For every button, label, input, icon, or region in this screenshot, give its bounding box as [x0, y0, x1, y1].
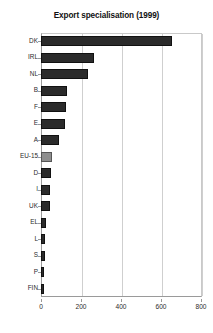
bar-row	[41, 267, 202, 277]
y-axis-tick-mark	[38, 41, 41, 42]
y-axis-tick-mark	[38, 173, 41, 174]
bars-layer	[41, 33, 202, 297]
chart-title: Export specialisation (1999)	[0, 11, 213, 20]
y-axis-tick-label: I	[0, 186, 38, 192]
bar-uk[interactable]	[41, 201, 50, 211]
y-axis-tick-label: EU-15	[0, 153, 38, 159]
bar-dk[interactable]	[41, 36, 172, 46]
y-axis-tick-mark	[38, 289, 41, 290]
bar-row	[41, 168, 202, 178]
x-axis-tick-label: 400	[115, 304, 126, 311]
bar-e[interactable]	[41, 119, 65, 129]
y-axis-tick-label: NL	[0, 71, 38, 77]
x-axis-tick-mark	[121, 299, 122, 302]
y-axis-tick-label: EL	[0, 219, 38, 225]
bar-b[interactable]	[41, 86, 67, 96]
y-axis-tick-mark	[38, 239, 41, 240]
y-axis-tick-label: FIN	[0, 285, 38, 291]
y-axis-tick-mark	[38, 124, 41, 125]
bar-row	[41, 53, 202, 63]
y-axis-tick-mark	[38, 272, 41, 273]
x-axis-tick-label: 200	[75, 304, 86, 311]
bar-a[interactable]	[41, 135, 59, 145]
bar-row	[41, 185, 202, 195]
bar-row	[41, 69, 202, 79]
y-axis-tick-label: A	[0, 137, 38, 143]
y-axis-tick-mark	[38, 91, 41, 92]
x-axis-labels: 0200400600800	[0, 299, 213, 319]
y-axis-tick-label: B	[0, 87, 38, 93]
bar-f[interactable]	[41, 102, 66, 112]
bar-el[interactable]	[41, 218, 46, 228]
y-axis-tick-mark	[38, 140, 41, 141]
y-axis-tick-label: P	[0, 269, 38, 275]
y-axis-labels: DKIRLNLBFEAEU-15DIUKELLSPFIN	[0, 33, 38, 297]
bar-irl[interactable]	[41, 53, 94, 63]
y-axis-tick-mark	[38, 107, 41, 108]
y-axis-tick-mark	[38, 206, 41, 207]
bar-row	[41, 119, 202, 129]
x-axis-tick-label: 600	[155, 304, 166, 311]
bar-row	[41, 251, 202, 261]
bar-chart: Export specialisation (1999) DKIRLNLBFEA…	[0, 0, 213, 333]
y-axis-tick-label: L	[0, 236, 38, 242]
y-axis-tick-label: F	[0, 104, 38, 110]
x-axis-tick-mark	[201, 299, 202, 302]
bar-row	[41, 284, 202, 294]
bar-fin[interactable]	[41, 284, 44, 294]
bar-row	[41, 218, 202, 228]
gridline	[202, 34, 203, 296]
x-axis-tick-label: 800	[195, 304, 206, 311]
x-axis-tick-label: 0	[39, 304, 43, 311]
y-axis-tick-label: DK	[0, 38, 38, 44]
x-axis-tick-mark	[161, 299, 162, 302]
y-axis-tick-mark	[38, 256, 41, 257]
bar-p[interactable]	[41, 267, 44, 277]
y-axis-tick-label: S	[0, 252, 38, 258]
y-axis-tick-mark	[38, 190, 41, 191]
bar-row	[41, 135, 202, 145]
bar-eu-15[interactable]	[41, 152, 52, 162]
y-axis-tick-label: D	[0, 170, 38, 176]
bar-d[interactable]	[41, 168, 51, 178]
bar-s[interactable]	[41, 251, 45, 261]
y-axis-tick-mark	[38, 223, 41, 224]
bar-row	[41, 86, 202, 96]
bar-row	[41, 102, 202, 112]
x-axis-tick-mark	[81, 299, 82, 302]
bar-row	[41, 36, 202, 46]
bar-nl[interactable]	[41, 69, 88, 79]
bar-l[interactable]	[41, 234, 45, 244]
y-axis-tick-label: IRL	[0, 54, 38, 60]
bar-row	[41, 201, 202, 211]
y-axis-tick-mark	[38, 157, 41, 158]
bar-row	[41, 234, 202, 244]
y-axis-tick-label: E	[0, 120, 38, 126]
x-axis-tick-mark	[41, 299, 42, 302]
bar-i[interactable]	[41, 185, 50, 195]
y-axis-tick-label: UK	[0, 203, 38, 209]
bar-row	[41, 152, 202, 162]
y-axis-tick-mark	[38, 74, 41, 75]
y-axis-tick-mark	[38, 58, 41, 59]
